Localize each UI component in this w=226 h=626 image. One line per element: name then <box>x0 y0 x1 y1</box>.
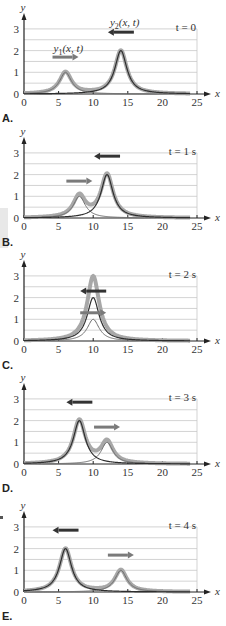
x-tick-label: 25 <box>192 343 204 355</box>
y-axis-arrow-icon <box>22 137 27 144</box>
y-tick-label: 0 <box>14 212 20 224</box>
x-axis-label: x <box>214 457 220 469</box>
x-tick-label: 0 <box>21 594 27 606</box>
y-tick-label: 0 <box>14 586 20 598</box>
x-tick-label: 10 <box>88 466 100 478</box>
arrow-right-icon <box>94 424 120 431</box>
y-tick-label: 1 <box>14 66 20 78</box>
x-tick-label: 20 <box>157 594 169 606</box>
y-tick-label: 3 <box>14 147 20 159</box>
y-axis-label: y <box>20 1 26 13</box>
y-tick-label: 0 <box>14 458 20 470</box>
x-axis-label: x <box>214 211 220 223</box>
panel-label: A. <box>2 112 13 124</box>
panel-label: E. <box>2 610 12 622</box>
time-label: t = 2 s <box>169 268 196 280</box>
x-tick-label: 20 <box>157 343 169 355</box>
x-axis-label: x <box>214 585 220 597</box>
arrow-right-icon <box>66 178 92 185</box>
time-label: t = 3 s <box>169 391 196 403</box>
x-axis-arrow-icon <box>204 339 211 344</box>
y-axis-arrow-icon <box>22 511 27 518</box>
panel-e: 05101520250123yxt = 4 sE. <box>2 499 220 622</box>
x-axis-arrow-icon <box>204 590 211 595</box>
x-tick-label: 15 <box>122 594 134 606</box>
x-tick-label: 25 <box>192 466 204 478</box>
panel-label: D. <box>2 482 13 494</box>
time-label: t = 0 <box>176 21 197 33</box>
x-tick-label: 15 <box>122 220 134 232</box>
sum-wave-curve <box>24 173 190 217</box>
y-axis-label: y <box>20 371 26 383</box>
x-tick-label: 10 <box>88 594 100 606</box>
y-tick-label: 3 <box>14 23 20 35</box>
y-tick-label: 2 <box>14 169 20 181</box>
y-tick-label: 1 <box>14 190 20 202</box>
panel-a: 05101520250123yxt = 0A.y1(x, t)y2(x, t) <box>2 1 220 124</box>
arrow-left-icon <box>53 527 79 534</box>
x-tick-label: 15 <box>122 343 134 355</box>
x-axis-label: x <box>214 334 220 346</box>
x-tick-label: 20 <box>157 466 169 478</box>
arrow-left-icon <box>94 153 120 160</box>
panel-b: 05101520250123yxt = 1 sB. <box>2 125 220 248</box>
panel-c: 05101520250123yxt = 2 sC. <box>2 248 220 371</box>
y-axis-arrow-icon <box>22 13 27 20</box>
y-tick-label: 2 <box>14 415 20 427</box>
panel-d: 05101520250123yxt = 3 sD. <box>2 371 220 494</box>
wave-superposition-figure: 05101520250123yxt = 0A.y1(x, t)y2(x, t)0… <box>0 0 226 626</box>
arrow-left-icon <box>108 29 134 36</box>
x-tick-label: 0 <box>21 343 27 355</box>
arrow-left-icon <box>80 288 106 295</box>
y-tick-label: 2 <box>14 292 20 304</box>
y-tick-label: 1 <box>14 313 20 325</box>
y-tick-label: 1 <box>14 436 20 448</box>
x-tick-label: 5 <box>56 220 62 232</box>
x-tick-label: 25 <box>192 96 204 108</box>
x-axis-arrow-icon <box>204 216 211 221</box>
x-tick-label: 10 <box>88 343 100 355</box>
y-axis-arrow-icon <box>22 260 27 267</box>
x-tick-label: 10 <box>88 96 100 108</box>
y1-series-label: y1(x, t) <box>53 42 84 57</box>
x-tick-label: 10 <box>88 220 100 232</box>
x-axis-arrow-icon <box>204 462 211 467</box>
x-tick-label: 5 <box>56 466 62 478</box>
y-tick-label: 3 <box>14 521 20 533</box>
x-tick-label: 0 <box>21 466 27 478</box>
y-tick-label: 0 <box>14 335 20 347</box>
y-tick-label: 2 <box>14 543 20 555</box>
y-axis-label: y <box>20 499 26 511</box>
x-tick-label: 15 <box>122 96 134 108</box>
x-tick-label: 0 <box>21 96 27 108</box>
y-axis-label: y <box>20 248 26 260</box>
x-axis-label: x <box>214 87 220 99</box>
y-tick-label: 0 <box>14 88 20 100</box>
panel-label: B. <box>2 236 13 248</box>
y-axis-arrow-icon <box>22 383 27 390</box>
x-tick-label: 20 <box>157 96 169 108</box>
arrow-right-icon <box>108 552 134 559</box>
x-tick-label: 5 <box>56 96 62 108</box>
x-axis-arrow-icon <box>204 92 211 97</box>
x-tick-label: 25 <box>192 220 204 232</box>
y-tick-label: 2 <box>14 45 20 57</box>
x-tick-label: 25 <box>192 594 204 606</box>
direction-arrows <box>80 288 106 317</box>
time-label: t = 4 s <box>169 519 196 531</box>
x-tick-label: 15 <box>122 466 134 478</box>
sum-wave-curve <box>24 50 190 93</box>
arrow-left-icon <box>66 399 92 406</box>
y-tick-label: 3 <box>14 270 20 282</box>
x-tick-label: 20 <box>157 220 169 232</box>
panel-label: C. <box>2 359 13 371</box>
x-tick-label: 0 <box>21 220 27 232</box>
time-label: t = 1 s <box>169 145 196 157</box>
x-tick-label: 5 <box>56 343 62 355</box>
y-axis-label: y <box>20 125 26 137</box>
y-tick-label: 3 <box>14 393 20 405</box>
arrow-right-icon <box>53 54 79 61</box>
x-tick-label: 5 <box>56 594 62 606</box>
y-tick-label: 1 <box>14 564 20 576</box>
